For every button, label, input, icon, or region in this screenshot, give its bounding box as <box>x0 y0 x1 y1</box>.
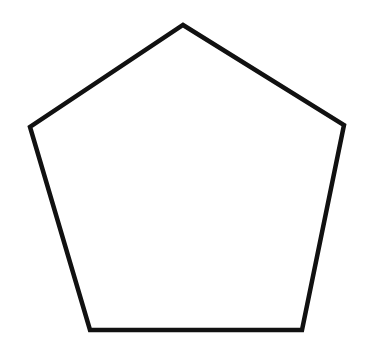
diagram-canvas <box>0 0 368 362</box>
pentagon-shape <box>30 25 344 330</box>
